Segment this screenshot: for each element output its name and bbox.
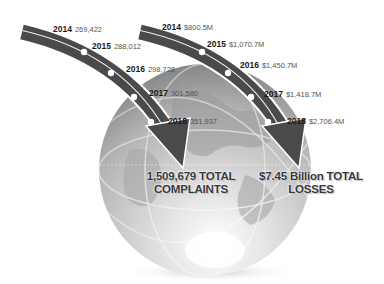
year: 2015: [207, 39, 226, 49]
year: 2015: [92, 41, 111, 51]
losses-total-line1: $7.45 Billion TOTAL: [253, 170, 369, 183]
losses-label-2016: 2016$1,450.7M: [240, 60, 297, 71]
losses-label-2015: 2015$1,070.7M: [207, 39, 264, 50]
year: 2018: [287, 116, 306, 126]
complaints-label-2017: 2017301,580: [149, 88, 198, 99]
year-dot: [225, 70, 231, 76]
losses-total: $7.45 Billion TOTAL LOSSES: [253, 170, 369, 196]
year-dot: [108, 70, 114, 76]
complaints-label-2018: 2018351,937: [168, 116, 217, 127]
complaints-label-2014: 2014269,422: [53, 24, 102, 35]
globe-highlight: [185, 232, 245, 268]
year: 2016: [240, 60, 259, 70]
value: 301,580: [171, 89, 198, 98]
losses-label-2018: 2018$2,706.4M: [287, 116, 344, 127]
year: 2014: [162, 22, 181, 32]
complaints-total-line1: 1,509,679 TOTAL: [142, 170, 240, 183]
infographic: 2014269,422 2015288,012 2016298,728 2017…: [0, 0, 384, 284]
year: 2017: [149, 88, 168, 98]
year-dot: [81, 49, 87, 55]
value: $2,706.4M: [309, 117, 344, 126]
losses-total-line2: LOSSES: [253, 183, 369, 196]
value: 298,728: [148, 65, 175, 74]
year: 2017: [264, 89, 283, 99]
complaints-label-2015: 2015288,012: [92, 41, 141, 52]
value: $1,450.7M: [262, 61, 297, 70]
year-dot: [199, 49, 205, 55]
complaints-total: 1,509,679 TOTAL COMPLAINTS: [142, 170, 240, 196]
year: 2016: [126, 64, 145, 74]
losses-label-2017: 2017$1,418.7M: [264, 89, 321, 100]
losses-label-2014: 2014$800.5M: [162, 22, 213, 33]
complaints-total-line2: COMPLAINTS: [142, 183, 240, 196]
value: $800.5M: [184, 23, 213, 32]
value: 351,937: [190, 117, 217, 126]
value: 288,012: [114, 42, 141, 51]
year: 2014: [53, 24, 72, 34]
year-dot: [148, 119, 154, 125]
value: $1,418.7M: [286, 90, 321, 99]
infographic-graphics: [0, 0, 384, 284]
year-dot: [248, 94, 254, 100]
year-dot: [265, 119, 271, 125]
value: 269,422: [75, 25, 102, 34]
year-dot: [131, 94, 137, 100]
year: 2018: [168, 116, 187, 126]
value: $1,070.7M: [229, 40, 264, 49]
complaints-label-2016: 2016298,728: [126, 64, 175, 75]
